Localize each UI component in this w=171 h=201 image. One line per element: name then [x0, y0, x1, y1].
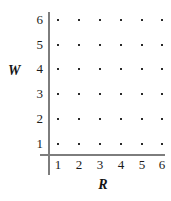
- x-tick-label: 3: [93, 158, 107, 172]
- data-point: [78, 68, 80, 70]
- y-axis-line: [48, 12, 50, 175]
- data-point: [57, 44, 59, 46]
- data-point: [161, 93, 163, 95]
- data-point: [99, 44, 101, 46]
- data-point: [120, 93, 122, 95]
- x-tick-label: 4: [114, 158, 128, 172]
- scatter-plot-figure: 123456 123456 W R: [0, 0, 171, 201]
- y-tick-label: 5: [26, 38, 43, 51]
- data-point: [78, 19, 80, 21]
- y-tick: 6: [26, 13, 43, 26]
- data-point: [120, 44, 122, 46]
- data-point: [161, 118, 163, 120]
- y-tick: 1: [26, 137, 43, 150]
- data-point: [57, 118, 59, 120]
- y-tick-label: 2: [26, 112, 43, 125]
- y-tick: 2: [26, 112, 43, 125]
- data-point: [99, 19, 101, 21]
- data-point: [99, 93, 101, 95]
- x-tick-label: 1: [51, 158, 65, 172]
- data-point: [161, 44, 163, 46]
- data-point: [141, 68, 143, 70]
- x-axis-title: R: [89, 178, 117, 192]
- data-point: [99, 68, 101, 70]
- y-tick-label: 6: [26, 13, 43, 26]
- y-axis-title: W: [8, 64, 20, 78]
- data-point: [57, 19, 59, 21]
- x-tick-label: 5: [135, 158, 149, 172]
- data-point: [141, 143, 143, 145]
- data-point: [57, 68, 59, 70]
- data-point: [120, 19, 122, 21]
- y-tick: 3: [26, 87, 43, 100]
- x-tick-label: 6: [155, 158, 169, 172]
- y-tick-label: 4: [26, 62, 43, 75]
- data-point: [57, 143, 59, 145]
- data-point: [99, 118, 101, 120]
- data-point: [78, 44, 80, 46]
- data-point: [161, 143, 163, 145]
- data-point: [141, 44, 143, 46]
- x-tick-label: 2: [72, 158, 86, 172]
- data-point: [78, 118, 80, 120]
- data-point: [78, 143, 80, 145]
- data-point: [141, 118, 143, 120]
- data-point: [120, 143, 122, 145]
- data-point: [78, 93, 80, 95]
- y-tick-label: 3: [26, 87, 43, 100]
- data-point: [141, 19, 143, 21]
- data-point: [99, 143, 101, 145]
- data-point: [57, 93, 59, 95]
- data-point: [141, 93, 143, 95]
- data-point: [161, 19, 163, 21]
- y-tick: 4: [26, 62, 43, 75]
- x-axis-line: [40, 154, 165, 156]
- y-tick-label: 1: [26, 137, 43, 150]
- data-point: [120, 68, 122, 70]
- data-point: [161, 68, 163, 70]
- y-tick: 5: [26, 38, 43, 51]
- data-point: [120, 118, 122, 120]
